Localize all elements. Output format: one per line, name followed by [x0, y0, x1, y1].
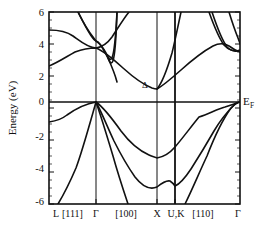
- x-label-UK: U,K: [168, 208, 186, 219]
- y-axis-title: Energy (eV): [6, 80, 19, 135]
- y-tick-labels: 6 4 2 0 -2 -4 -6: [35, 7, 45, 207]
- x-label-L: L: [53, 208, 59, 219]
- y-tick-label: 2: [39, 71, 44, 82]
- y-tick-label: -6: [35, 196, 44, 207]
- band-structure-figure: Energy (eV) 6 4 2 0 -2 -4 -6: [0, 0, 268, 235]
- fermi-label-sub: F: [250, 101, 254, 110]
- x-tick-labels: L [111] Γ [100] X U,K [110] Γ: [53, 208, 241, 219]
- x-label-gamma-right: Γ: [235, 208, 241, 219]
- x-label-gamma-left: Γ: [93, 208, 99, 219]
- delta-annotation: Δ: [142, 80, 148, 90]
- x-label-X: X: [153, 208, 161, 219]
- fermi-label-main: E: [243, 95, 250, 107]
- x-label-110: [110]: [192, 208, 213, 219]
- y-tick-label: -2: [35, 131, 44, 142]
- y-tick-label: 0: [39, 96, 44, 107]
- y-tick-label: 4: [39, 39, 45, 50]
- x-label-111: [111]: [62, 208, 83, 219]
- y-tick-label: 6: [39, 7, 44, 18]
- y-tick-label: -4: [35, 163, 44, 174]
- x-label-100: [100]: [115, 208, 137, 219]
- band-structure-plot: Energy (eV) 6 4 2 0 -2 -4 -6: [0, 0, 268, 235]
